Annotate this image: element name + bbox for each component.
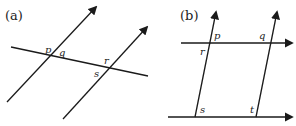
angle-label-r: r [104, 55, 110, 66]
angle-label-p: p [45, 44, 52, 55]
angle-label-r: r [200, 46, 206, 57]
panel-a-label: (a) [5, 8, 23, 23]
angle-label-s: s [200, 104, 205, 115]
angle-label-p: p [214, 30, 221, 41]
transversal-line [11, 47, 148, 76]
panel-b-label: (b) [180, 8, 198, 23]
panel-b: (b) p q r s t [168, 8, 292, 117]
parallel-lines-figure: (a) p q r s (b) p q r s t [0, 0, 296, 126]
right-transversal-arrow [256, 12, 277, 117]
panel-a: (a) p q r s [5, 7, 148, 119]
angle-label-t: t [250, 104, 255, 115]
angle-label-s: s [94, 68, 99, 79]
angle-label-q: q [259, 30, 265, 41]
left-transversal-arrow [195, 12, 216, 117]
angle-label-q: q [59, 47, 65, 58]
